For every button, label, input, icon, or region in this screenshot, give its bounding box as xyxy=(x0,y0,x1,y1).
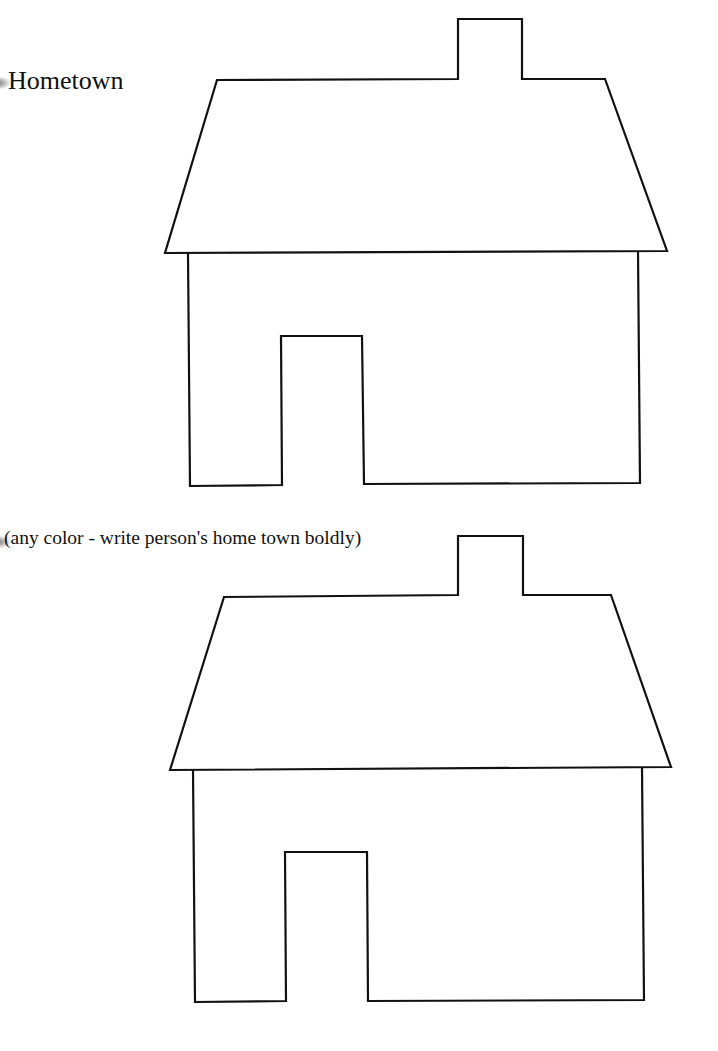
house-template-1 xyxy=(165,19,667,486)
house-outlines xyxy=(0,0,718,1051)
house-template-2 xyxy=(170,536,671,1002)
roof-with-chimney-outline xyxy=(165,19,667,253)
house-body-with-door-outline xyxy=(188,251,640,486)
house-body-with-door-outline xyxy=(193,767,644,1002)
worksheet-page: Hometown (any color - write person's hom… xyxy=(0,0,718,1051)
roof-with-chimney-outline xyxy=(170,536,671,770)
